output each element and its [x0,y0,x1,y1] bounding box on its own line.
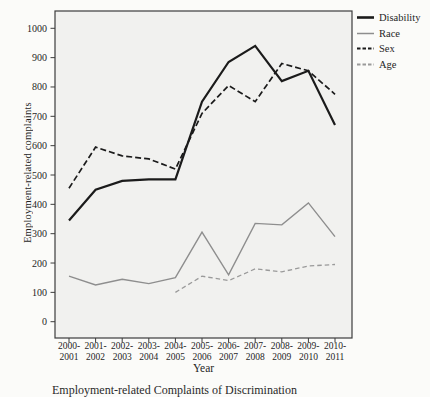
legend-label: Sex [379,43,395,54]
x-tick-label: 2005-2006 [191,341,213,362]
legend-item-race: Race [357,28,420,39]
legend-line-sample-icon [357,15,374,20]
x-tick-label: 2006-2007 [218,341,240,362]
x-tick-label: 2007-2008 [244,341,266,362]
y-tick-label: 900 [32,52,47,63]
y-tick-label: 100 [32,287,47,298]
legend-line-sample-icon [357,46,374,51]
x-tick-label: 2002-2003 [111,341,133,362]
x-axis-label: Year [55,362,352,374]
legend-line-sample-icon [357,62,374,67]
x-tick-label: 2010-2011 [324,341,346,362]
legend-line-sample-icon [357,31,374,36]
y-tick-label: 400 [32,199,47,210]
x-tick-label: 2003-2004 [138,341,160,362]
figure-caption: Employment-related Complaints of Discrim… [52,384,297,397]
y-tick-label: 0 [42,316,47,327]
y-tick-label: 300 [32,228,47,239]
y-tick-label: 700 [32,111,47,122]
x-tick-label: 2009-2010 [297,341,319,362]
legend-label: Disability [379,12,420,23]
legend-item-sex: Sex [357,43,420,54]
y-tick-label: 600 [32,140,47,151]
legend-item-disability: Disability [357,12,420,23]
x-tick-label: 2004-2005 [164,341,186,362]
x-tick-label: 2000-2001 [58,341,80,362]
legend: DisabilityRaceSexAge [357,12,420,70]
x-tick-label: 2008-2009 [271,341,293,362]
y-axis-label: Employment-related complaints [20,0,34,345]
x-tick-label: 2001-2002 [85,341,107,362]
legend-label: Age [379,59,397,70]
y-tick-label: 200 [32,258,47,269]
y-tick-label: 800 [32,81,47,92]
y-tick-label: 500 [32,170,47,181]
legend-label: Race [379,28,400,39]
legend-item-age: Age [357,59,420,70]
